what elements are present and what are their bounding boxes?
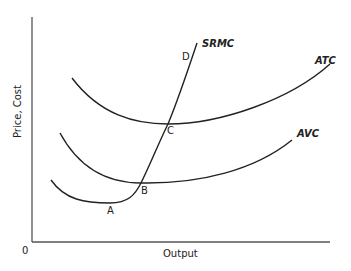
avc-curve <box>60 133 292 183</box>
x-axis-label: Output <box>163 248 198 259</box>
origin-label: 0 <box>22 245 28 256</box>
point-a-label: A <box>107 205 114 216</box>
avc-label: AVC <box>296 128 320 139</box>
point-d-label: D <box>182 51 190 62</box>
srmc-curve <box>51 43 197 203</box>
atc-curve <box>72 64 330 124</box>
srmc-label: SRMC <box>202 38 235 49</box>
point-c-label: C <box>167 125 174 136</box>
y-axis-label: Price, Cost <box>12 85 23 138</box>
atc-label: ATC <box>314 55 337 66</box>
point-b-label: B <box>141 185 148 196</box>
cost-curves-diagram: SRMC ATC AVC D C B A 0 Output Price, Cos… <box>0 0 351 271</box>
